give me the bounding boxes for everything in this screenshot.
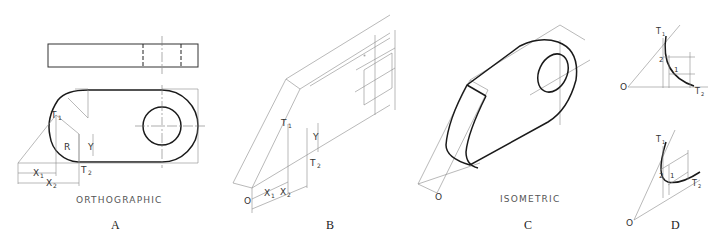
panel-letter-a: A — [111, 218, 120, 232]
label-x1: X — [264, 188, 270, 198]
label-point-1-lower: 1 — [670, 172, 674, 180]
label-t2-sub-lower: 2 — [698, 183, 701, 189]
view-label-orthographic: ORTHOGRAPHIC — [76, 195, 163, 205]
label-t1: T — [50, 110, 57, 120]
isometric-front-face — [446, 40, 577, 165]
label-t1-sub-upper: 1 — [662, 31, 665, 37]
label-t2-sub: 2 — [317, 162, 321, 169]
panel-letter-d: D — [671, 218, 680, 232]
panel-letter-b: B — [326, 218, 334, 232]
label-o-upper: O — [620, 82, 627, 92]
label-t1-lower: T — [655, 135, 661, 144]
label-t1-sub-lower: 1 — [662, 139, 665, 145]
view-label-isometric: ISOMETRIC — [500, 194, 560, 204]
label-t2: T — [309, 158, 316, 168]
isometric-hole — [532, 49, 574, 97]
label-x2-sub: 2 — [287, 191, 291, 198]
label-t2: T — [80, 165, 87, 175]
label-o-lower: O — [626, 218, 633, 228]
top-view-rect — [48, 44, 198, 67]
arc-upper — [665, 36, 694, 86]
label-t1-sub: 1 — [58, 114, 62, 121]
label-x1-sub: 1 — [271, 192, 275, 199]
label-x1-sub: 1 — [40, 172, 44, 179]
label-point-2-lower: 2 — [659, 172, 663, 180]
label-t2-sub: 2 — [88, 169, 92, 176]
label-r: R — [64, 142, 70, 152]
label-point-2-upper: 2 — [659, 56, 663, 64]
panel-letter-c: C — [524, 218, 532, 232]
panel-a-orthographic: T 1 R Y T 2 X 1 X 2 ORTHOGRAPHIC A — [18, 36, 205, 232]
panel-d-arc-construction: O T 1 2 1 T 2 O T 1 2 1 T 2 D — [620, 25, 708, 232]
label-t2-lower: T — [691, 179, 697, 188]
label-t2-upper: T — [694, 87, 700, 96]
label-t2-sub-upper: 2 — [701, 91, 704, 97]
technical-drawing-figure: T 1 R Y T 2 X 1 X 2 ORTHOGRAPHIC A T 1 Y… — [0, 0, 719, 245]
label-y: Y — [312, 132, 319, 142]
label-o: O — [244, 196, 251, 206]
label-y: Y — [87, 142, 94, 152]
label-o: O — [435, 192, 442, 202]
label-x2: X — [280, 187, 286, 197]
label-t1-sub: 1 — [288, 122, 292, 129]
panel-b-oblique-construction: T 1 Y T 2 O X 1 X 2 B — [233, 15, 395, 232]
label-x2-sub: 2 — [53, 182, 57, 189]
panel-c-isometric: O ISOMETRIC C — [418, 25, 590, 232]
label-t1-upper: T — [655, 27, 661, 36]
label-x1: X — [33, 168, 39, 178]
label-x2: X — [46, 178, 52, 188]
label-t1: T — [280, 118, 287, 128]
label-point-1-upper: 1 — [674, 66, 678, 74]
